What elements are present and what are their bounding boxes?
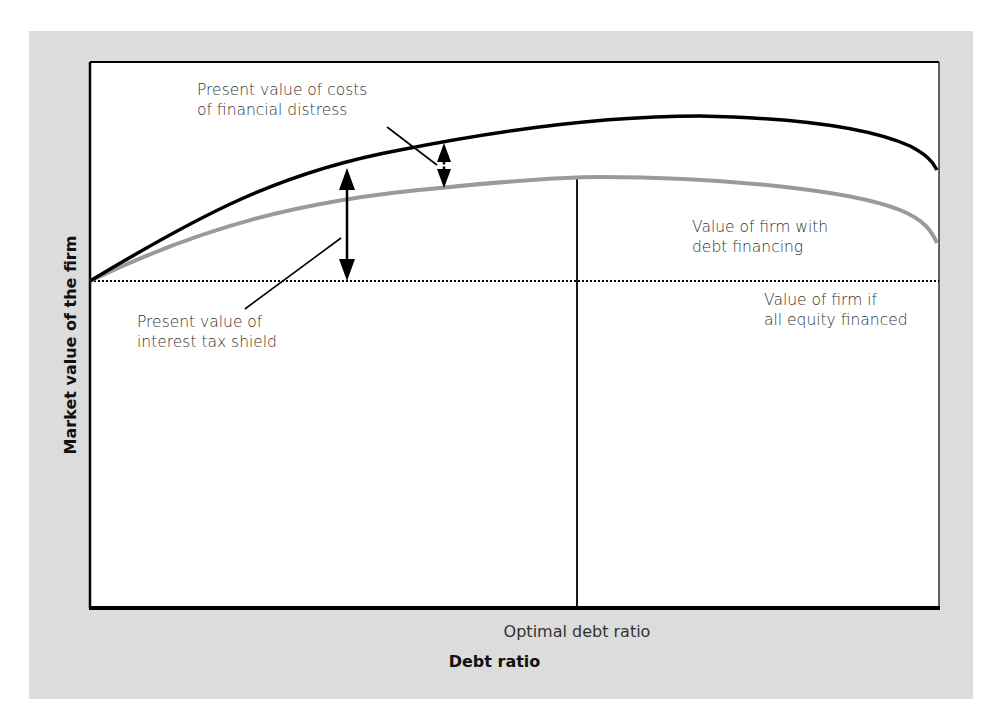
tax-shield-label: Present value of interest tax shield [137, 312, 277, 352]
all-equity-label-line1: Value of firm if [764, 290, 908, 310]
debt-financing-label: Value of firm with debt financing [692, 217, 828, 257]
optimal-debt-ratio-label: Optimal debt ratio [504, 622, 651, 641]
chart-canvas [0, 0, 989, 728]
tax-shield-label-line1: Present value of [137, 312, 277, 332]
all-equity-label: Value of firm if all equity financed [764, 290, 908, 330]
distress-label-line2: of financial distress [197, 100, 367, 120]
distress-label-line1: Present value of costs [197, 80, 367, 100]
tax-shield-label-line2: interest tax shield [137, 332, 277, 352]
all-equity-label-line2: all equity financed [764, 310, 908, 330]
x-axis-title: Debt ratio [0, 652, 989, 671]
debt-financing-label-line1: Value of firm with [692, 217, 828, 237]
y-axis-title: Market value of the firm [61, 236, 80, 455]
distress-label: Present value of costs of financial dist… [197, 80, 367, 120]
debt-financing-label-line2: debt financing [692, 237, 828, 257]
